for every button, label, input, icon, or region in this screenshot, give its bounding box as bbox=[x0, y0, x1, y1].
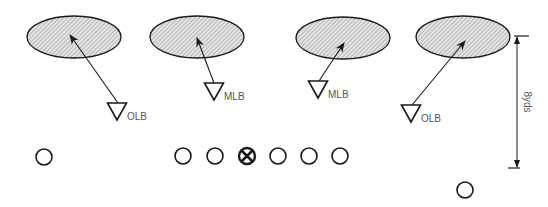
defender-label: MLB bbox=[328, 89, 349, 100]
player-circle-icon bbox=[332, 148, 348, 164]
offensive-player-back bbox=[457, 182, 473, 198]
coverage-zone-zone-1 bbox=[27, 16, 121, 58]
player-circle-icon bbox=[270, 148, 286, 164]
player-circle-icon bbox=[36, 149, 52, 165]
player-circle-icon bbox=[457, 182, 473, 198]
player-circle-icon bbox=[301, 148, 317, 164]
defender-olb-left: OLB bbox=[108, 103, 148, 122]
coverage-zones bbox=[27, 16, 510, 59]
linebacker-triangle-icon bbox=[205, 83, 224, 100]
offensive-player-right-guard bbox=[270, 148, 286, 164]
offensive-player-tight-end bbox=[332, 148, 348, 164]
defenders: OLBMLBMLBOLB bbox=[108, 81, 442, 124]
defender-mlb-right: MLB bbox=[309, 81, 349, 100]
depth-measurement: 8yds bbox=[508, 36, 533, 168]
defender-olb-right: OLB bbox=[402, 105, 442, 124]
coverage-zone-zone-2 bbox=[150, 16, 244, 58]
offensive-player-left-tackle bbox=[175, 148, 191, 164]
offensive-player-left-guard bbox=[207, 148, 223, 164]
offensive-player-center bbox=[239, 148, 255, 164]
player-circle-icon bbox=[175, 148, 191, 164]
offensive-players bbox=[36, 148, 473, 198]
linebacker-triangle-icon bbox=[108, 103, 127, 120]
defensive-alignment-diagram: OLBMLBMLBOLB 8yds bbox=[0, 0, 548, 207]
coverage-zone-zone-3 bbox=[296, 17, 390, 59]
measurement-label: 8yds bbox=[522, 91, 533, 112]
defender-mlb-left: MLB bbox=[205, 83, 245, 102]
linebacker-triangle-icon bbox=[309, 81, 328, 98]
defender-label: OLB bbox=[421, 113, 441, 124]
offensive-player-split-end bbox=[36, 149, 52, 165]
player-circle-icon bbox=[207, 148, 223, 164]
defender-label: OLB bbox=[127, 111, 147, 122]
defender-label: MLB bbox=[224, 91, 245, 102]
linebacker-triangle-icon bbox=[402, 105, 421, 122]
drop-arrows bbox=[70, 35, 465, 105]
offensive-player-right-tackle bbox=[301, 148, 317, 164]
coverage-zone-zone-4 bbox=[416, 16, 510, 58]
